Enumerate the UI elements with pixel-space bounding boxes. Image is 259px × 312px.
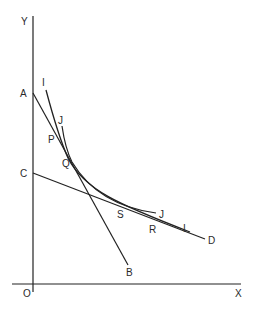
curve-i-bottom-label: I xyxy=(183,223,186,234)
x-axis-label: X xyxy=(235,288,242,299)
origin-label: O xyxy=(23,288,31,299)
point-b-label: B xyxy=(126,267,133,278)
point-p-label: P xyxy=(48,134,55,145)
y-axis-label: Y xyxy=(21,16,28,27)
point-d-label: D xyxy=(208,235,215,246)
diagram-canvas: Y X O A C B D P Q S R I I J J xyxy=(0,0,259,312)
point-s-label: S xyxy=(117,209,124,220)
point-a-label: A xyxy=(20,88,27,99)
line-cd xyxy=(33,173,205,239)
point-r-label: R xyxy=(149,224,156,235)
curve-j-bottom-label: J xyxy=(159,209,164,220)
curve-j-top-label: J xyxy=(58,115,63,126)
diagram-svg: Y X O A C B D P Q S R I I J J xyxy=(0,0,259,312)
point-q-label: Q xyxy=(62,158,70,169)
point-c-label: C xyxy=(20,168,27,179)
curve-i-top-label: I xyxy=(42,77,45,88)
